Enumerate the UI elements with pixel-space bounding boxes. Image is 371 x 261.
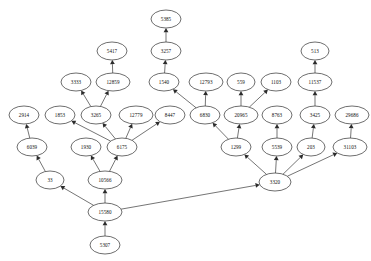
node-label: 1540	[159, 79, 170, 85]
node-label: 1930	[81, 144, 92, 150]
edge-arrowhead	[275, 124, 280, 128]
graph-node[interactable]: 20965	[224, 106, 258, 124]
graph-edge	[105, 126, 115, 139]
graph-edge	[83, 94, 91, 106]
graph-node[interactable]: 29686	[335, 106, 369, 124]
graph-edge	[351, 128, 352, 138]
graph-edge	[27, 128, 30, 138]
edge-arrowhead	[164, 28, 169, 32]
edge-arrowhead	[163, 60, 168, 64]
graph-edge	[276, 160, 277, 173]
graph-node[interactable]: 12779	[119, 106, 153, 124]
edge-arrowhead	[313, 91, 318, 95]
graph-node[interactable]: 3257	[151, 42, 181, 60]
graph-node[interactable]: 1299	[221, 138, 251, 156]
graph-node[interactable]: 559	[227, 73, 255, 91]
node-label: 559	[237, 79, 245, 85]
node-label: 203	[307, 144, 315, 150]
graph-node[interactable]: 1103	[261, 73, 291, 91]
node-label: 15580	[99, 209, 112, 215]
node-label: 513	[311, 48, 319, 54]
graph-node[interactable]: 6830	[190, 106, 220, 124]
graph-node[interactable]: 203	[297, 138, 325, 156]
edge-layer	[25, 28, 354, 236]
graph-node[interactable]: 3425	[300, 106, 330, 124]
graph-node[interactable]: 12793	[189, 73, 223, 91]
graph-edge	[176, 92, 196, 108]
node-label: 3425	[310, 112, 321, 118]
graph-edge	[64, 188, 94, 205]
node-label: 10566	[99, 177, 112, 183]
edge-arrowhead	[103, 221, 108, 225]
graph-edge	[121, 185, 255, 209]
graph-edge	[93, 159, 100, 171]
graph-node[interactable]: 11537	[298, 73, 332, 91]
node-label: 5385	[161, 16, 172, 22]
edge-arrowhead	[274, 156, 279, 160]
graph-node[interactable]: 31103	[333, 138, 367, 156]
edge-arrowhead	[311, 124, 316, 128]
graph-node[interactable]: 1930	[71, 138, 101, 156]
node-label: 3265	[91, 112, 102, 118]
node-label: 11537	[309, 79, 322, 85]
node-label: 6039	[27, 144, 38, 150]
graph-node[interactable]: 3333	[61, 73, 91, 91]
edge-arrowhead	[110, 60, 115, 64]
edge-arrowhead	[203, 91, 208, 95]
graph-edge	[249, 92, 265, 107]
edge-arrowhead	[155, 122, 160, 126]
node-label: 8763	[272, 112, 283, 118]
graph-node[interactable]: 2914	[9, 106, 39, 124]
graph-node[interactable]: 6175	[107, 138, 137, 156]
graph-node[interactable]: 5539	[262, 138, 292, 156]
graph-edge	[312, 128, 313, 138]
node-label: 3257	[161, 48, 172, 54]
edge-arrowhead	[313, 60, 318, 64]
graph-node[interactable]: 1540	[149, 73, 179, 91]
node-label: 5417	[107, 48, 118, 54]
graph-node[interactable]: 6039	[17, 138, 47, 156]
node-label: 5539	[272, 144, 283, 150]
graph-edge	[109, 159, 115, 171]
graph-edge	[247, 157, 266, 174]
graph-edge	[215, 126, 228, 139]
edge-arrowhead	[25, 124, 30, 129]
node-label: 1853	[55, 112, 66, 118]
graph-svg: 5385325754175133333128591540127935591103…	[0, 0, 371, 261]
node-layer: 5385325754175133333128591540127935591103…	[9, 10, 369, 254]
graph-edge	[39, 159, 46, 171]
edge-arrowhead	[349, 124, 354, 128]
graph-node[interactable]: 8763	[262, 106, 292, 124]
graph-node[interactable]: 3265	[81, 106, 111, 124]
edge-arrowhead	[103, 123, 108, 128]
edge-arrowhead	[239, 91, 244, 95]
node-label: 33	[47, 177, 53, 183]
edge-arrowhead	[173, 89, 178, 94]
graph-edge	[100, 94, 106, 106]
graph-node[interactable]: 1853	[45, 106, 75, 124]
node-label: 1299	[231, 144, 242, 150]
node-label: 5307	[100, 242, 111, 248]
node-label: 12859	[107, 79, 120, 85]
graph-node[interactable]: 12859	[96, 73, 130, 91]
node-label: 12779	[130, 112, 143, 118]
node-label: 3333	[71, 79, 82, 85]
graph-node[interactable]: 513	[301, 42, 329, 60]
node-label: 2914	[19, 112, 30, 118]
node-label: 1103	[271, 79, 282, 85]
edge-arrowhead	[103, 189, 108, 193]
graph-node[interactable]: 5307	[90, 236, 120, 254]
graph-node[interactable]: 5385	[151, 10, 181, 28]
graph-node[interactable]: 3320	[259, 173, 291, 191]
graph-node[interactable]: 5417	[97, 42, 127, 60]
graph-canvas: 5385325754175133333128591540127935591103…	[0, 0, 371, 261]
node-label: 8447	[165, 112, 176, 118]
graph-node[interactable]: 15580	[88, 203, 122, 221]
node-label: 12793	[200, 79, 213, 85]
graph-edge	[132, 124, 156, 140]
graph-node[interactable]: 8447	[155, 106, 185, 124]
node-label: 31103	[344, 144, 357, 150]
graph-node[interactable]: 10566	[88, 171, 122, 189]
node-label: 6830	[200, 112, 211, 118]
graph-node[interactable]: 33	[36, 171, 64, 189]
